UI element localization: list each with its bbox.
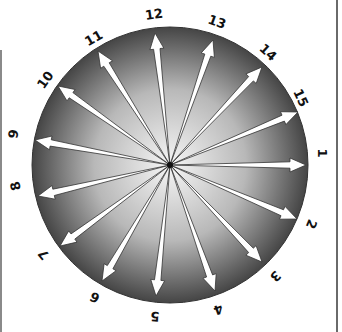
- radial-arrow-wheel: [0, 0, 342, 332]
- spoke-label-1: 1: [314, 145, 330, 161]
- spoke-label-5: 5: [147, 308, 164, 325]
- spoke-label-12: 12: [144, 6, 162, 24]
- center-hub: [167, 162, 173, 168]
- spoke-label-9: 9: [5, 125, 23, 143]
